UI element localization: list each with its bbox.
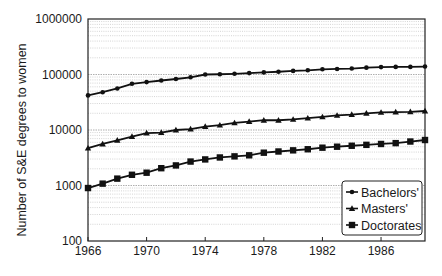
series-bachelors bbox=[86, 64, 428, 97]
square-marker bbox=[217, 154, 223, 160]
square-marker bbox=[114, 175, 120, 181]
x-axis-ticks: 196619701974197819821986 bbox=[75, 237, 395, 258]
circle-marker bbox=[159, 78, 164, 83]
square-marker bbox=[261, 149, 267, 155]
square-marker bbox=[422, 137, 428, 143]
circle-marker bbox=[305, 68, 310, 73]
square-marker bbox=[363, 142, 369, 148]
y-tick-label: 10000 bbox=[49, 123, 83, 137]
y-axis-label: Number of S&E degrees to women bbox=[15, 43, 29, 236]
square-marker bbox=[158, 165, 164, 171]
x-tick-label: 1978 bbox=[250, 244, 277, 258]
y-tick-label: 100000 bbox=[42, 68, 82, 82]
circle-marker bbox=[262, 70, 267, 75]
square-marker bbox=[392, 140, 398, 146]
square-marker bbox=[187, 158, 193, 164]
circle-marker bbox=[232, 71, 237, 76]
circle-marker bbox=[291, 69, 296, 74]
circle-marker bbox=[247, 71, 252, 76]
square-marker bbox=[275, 148, 281, 154]
circle-marker bbox=[423, 64, 428, 69]
square-marker bbox=[202, 156, 208, 162]
circle-marker bbox=[364, 65, 369, 70]
square-marker bbox=[143, 170, 149, 176]
circle-marker bbox=[100, 90, 105, 95]
square-marker bbox=[231, 153, 237, 159]
square-icon bbox=[349, 222, 355, 228]
circle-marker bbox=[335, 67, 340, 72]
circle-marker bbox=[408, 65, 413, 70]
circle-marker bbox=[349, 66, 354, 71]
x-tick-label: 1982 bbox=[309, 244, 336, 258]
legend-label: Doctorates bbox=[361, 219, 421, 233]
circle-marker bbox=[115, 86, 120, 91]
circle-icon bbox=[350, 190, 355, 195]
square-marker bbox=[334, 144, 340, 150]
square-marker bbox=[99, 180, 105, 186]
circle-marker bbox=[130, 81, 135, 86]
x-tick-label: 1986 bbox=[368, 244, 395, 258]
square-marker bbox=[378, 141, 384, 147]
square-marker bbox=[349, 143, 355, 149]
circle-marker bbox=[144, 80, 149, 85]
square-marker bbox=[305, 146, 311, 152]
y-axis-ticks: 1001000100001000001000000 bbox=[35, 12, 82, 248]
square-marker bbox=[173, 162, 179, 168]
square-marker bbox=[246, 152, 252, 158]
y-tick-label: 1000 bbox=[55, 179, 82, 193]
circle-marker bbox=[276, 69, 281, 74]
legend: Bachelors'Masters'Doctorates bbox=[342, 181, 422, 235]
line-chart: 1001000100001000001000000 19661970197419… bbox=[0, 0, 442, 276]
circle-marker bbox=[86, 93, 91, 98]
legend-label: Bachelors' bbox=[361, 186, 419, 200]
circle-marker bbox=[218, 72, 223, 77]
x-tick-label: 1966 bbox=[75, 244, 102, 258]
circle-marker bbox=[393, 65, 398, 70]
square-marker bbox=[290, 147, 296, 153]
square-marker bbox=[129, 172, 135, 178]
x-tick-label: 1974 bbox=[192, 244, 219, 258]
circle-marker bbox=[188, 75, 193, 80]
legend-label: Masters' bbox=[361, 202, 408, 216]
y-tick-label: 1000000 bbox=[35, 12, 82, 26]
circle-marker bbox=[203, 72, 208, 77]
x-tick-label: 1970 bbox=[133, 244, 160, 258]
circle-marker bbox=[174, 77, 179, 82]
square-marker bbox=[319, 144, 325, 150]
square-marker bbox=[85, 185, 91, 191]
square-marker bbox=[407, 138, 413, 144]
series-line bbox=[88, 111, 425, 148]
circle-marker bbox=[320, 67, 325, 72]
circle-marker bbox=[379, 65, 384, 70]
